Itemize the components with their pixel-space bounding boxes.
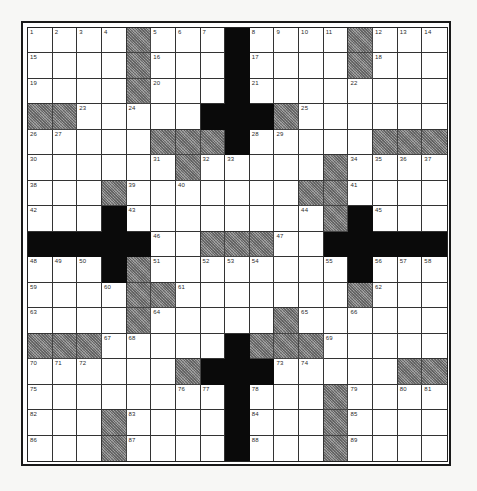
answer-cell[interactable]: 64 (151, 308, 176, 333)
answer-cell[interactable]: 34 (348, 155, 373, 180)
answer-cell[interactable] (201, 334, 226, 359)
answer-cell[interactable]: 84 (250, 410, 275, 435)
answer-cell[interactable]: 4 (102, 28, 127, 53)
answer-cell[interactable] (77, 181, 102, 206)
answer-cell[interactable]: 67 (102, 334, 127, 359)
answer-cell[interactable] (324, 308, 349, 333)
answer-cell[interactable]: 52 (201, 257, 226, 282)
answer-cell[interactable] (398, 334, 423, 359)
answer-cell[interactable]: 24 (127, 104, 152, 129)
answer-cell[interactable] (77, 283, 102, 308)
answer-cell[interactable] (422, 79, 447, 104)
answer-cell[interactable]: 13 (398, 28, 423, 53)
answer-cell[interactable] (299, 436, 324, 461)
answer-cell[interactable]: 20 (151, 79, 176, 104)
answer-cell[interactable] (422, 308, 447, 333)
answer-cell[interactable] (53, 181, 78, 206)
answer-cell[interactable] (348, 104, 373, 129)
answer-cell[interactable] (398, 79, 423, 104)
answer-cell[interactable] (53, 308, 78, 333)
answer-cell[interactable] (77, 130, 102, 155)
answer-cell[interactable] (225, 206, 250, 231)
answer-cell[interactable]: 83 (127, 410, 152, 435)
answer-cell[interactable]: 68 (127, 334, 152, 359)
answer-cell[interactable] (422, 283, 447, 308)
answer-cell[interactable] (102, 385, 127, 410)
answer-cell[interactable]: 8 (250, 28, 275, 53)
answer-cell[interactable] (201, 283, 226, 308)
answer-cell[interactable] (151, 385, 176, 410)
answer-cell[interactable]: 27 (53, 130, 78, 155)
answer-cell[interactable]: 14 (422, 28, 447, 53)
answer-cell[interactable]: 17 (250, 53, 275, 78)
answer-cell[interactable]: 26 (28, 130, 53, 155)
answer-cell[interactable] (151, 104, 176, 129)
answer-cell[interactable] (176, 334, 201, 359)
answer-cell[interactable] (151, 181, 176, 206)
answer-cell[interactable] (127, 385, 152, 410)
answer-cell[interactable] (422, 206, 447, 231)
answer-cell[interactable]: 89 (348, 436, 373, 461)
answer-cell[interactable]: 70 (28, 359, 53, 384)
answer-cell[interactable]: 10 (299, 28, 324, 53)
answer-cell[interactable] (398, 181, 423, 206)
answer-cell[interactable] (373, 410, 398, 435)
answer-cell[interactable]: 51 (151, 257, 176, 282)
answer-cell[interactable] (274, 283, 299, 308)
answer-cell[interactable]: 78 (250, 385, 275, 410)
answer-cell[interactable] (201, 79, 226, 104)
answer-cell[interactable] (127, 155, 152, 180)
answer-cell[interactable] (274, 257, 299, 282)
answer-cell[interactable] (77, 53, 102, 78)
answer-cell[interactable] (373, 181, 398, 206)
answer-cell[interactable]: 30 (28, 155, 53, 180)
answer-cell[interactable] (176, 232, 201, 257)
answer-cell[interactable]: 81 (422, 385, 447, 410)
answer-cell[interactable] (274, 206, 299, 231)
answer-cell[interactable] (201, 53, 226, 78)
answer-cell[interactable] (398, 436, 423, 461)
answer-cell[interactable] (102, 308, 127, 333)
answer-cell[interactable] (398, 206, 423, 231)
answer-cell[interactable] (324, 130, 349, 155)
answer-cell[interactable] (348, 334, 373, 359)
answer-cell[interactable] (225, 181, 250, 206)
answer-cell[interactable]: 44 (299, 206, 324, 231)
answer-cell[interactable] (77, 385, 102, 410)
answer-cell[interactable]: 36 (398, 155, 423, 180)
answer-cell[interactable]: 48 (28, 257, 53, 282)
answer-cell[interactable]: 50 (77, 257, 102, 282)
answer-cell[interactable]: 5 (151, 28, 176, 53)
answer-cell[interactable] (77, 410, 102, 435)
answer-cell[interactable] (398, 410, 423, 435)
answer-cell[interactable] (274, 53, 299, 78)
answer-cell[interactable] (274, 181, 299, 206)
answer-cell[interactable]: 49 (53, 257, 78, 282)
answer-cell[interactable] (151, 334, 176, 359)
answer-cell[interactable]: 85 (348, 410, 373, 435)
answer-cell[interactable]: 56 (373, 257, 398, 282)
answer-cell[interactable]: 58 (422, 257, 447, 282)
answer-cell[interactable]: 28 (250, 130, 275, 155)
answer-cell[interactable] (102, 130, 127, 155)
answer-cell[interactable] (373, 308, 398, 333)
answer-cell[interactable] (77, 155, 102, 180)
answer-cell[interactable]: 29 (274, 130, 299, 155)
answer-cell[interactable]: 2 (53, 28, 78, 53)
answer-cell[interactable]: 65 (299, 308, 324, 333)
answer-cell[interactable] (250, 283, 275, 308)
answer-cell[interactable]: 35 (373, 155, 398, 180)
answer-cell[interactable] (324, 104, 349, 129)
answer-cell[interactable]: 19 (28, 79, 53, 104)
answer-cell[interactable]: 1 (28, 28, 53, 53)
answer-cell[interactable] (176, 410, 201, 435)
answer-cell[interactable] (398, 308, 423, 333)
answer-cell[interactable] (176, 436, 201, 461)
answer-cell[interactable] (176, 308, 201, 333)
answer-cell[interactable] (225, 308, 250, 333)
answer-cell[interactable] (102, 79, 127, 104)
answer-cell[interactable] (324, 53, 349, 78)
answer-cell[interactable] (422, 104, 447, 129)
answer-cell[interactable]: 88 (250, 436, 275, 461)
answer-cell[interactable]: 60 (102, 283, 127, 308)
